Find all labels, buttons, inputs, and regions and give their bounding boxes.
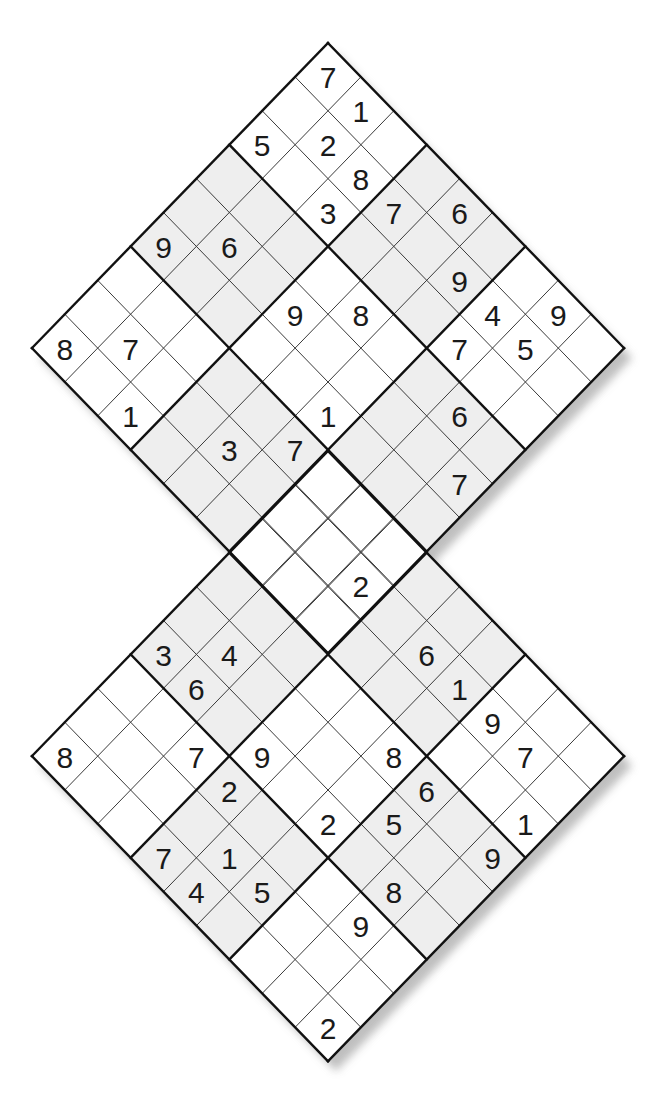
cell-layer [32,43,624,1061]
double-diamond-sudoku-board: 7152837696998498775116377234661987987262… [0,0,656,1105]
